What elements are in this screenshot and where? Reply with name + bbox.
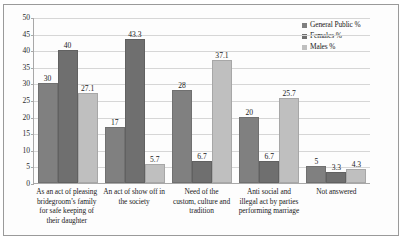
bar-slot: 27.1 [78, 18, 98, 183]
bar-value-label: 6.7 [264, 153, 274, 161]
category-label-line: bridegroom’s family [35, 197, 98, 207]
bar-slot: 30 [38, 18, 58, 183]
bar-group: 304027.1 [34, 18, 101, 183]
bar-group: 286.737.1 [168, 18, 235, 183]
bar-slot: 25.7 [279, 18, 299, 183]
y-axis-tick-label: 0 [26, 180, 30, 188]
bar-value-label: 28 [178, 82, 186, 90]
bar-value-label: 5.7 [150, 156, 160, 164]
category-label-line: custom, culture and [170, 197, 233, 207]
bar-slot: 20 [239, 18, 259, 183]
y-axis-tick-label: 20 [22, 114, 30, 122]
bar-slot: 3.3 [326, 18, 346, 183]
bar-groups: 304027.11743.35.7286.737.1206.725.753.34… [34, 18, 370, 183]
category-label-line: Anti social and [237, 187, 300, 197]
bar-group: 1743.35.7 [101, 18, 168, 183]
bar-slot: 37.1 [212, 18, 232, 183]
category-label: Anti social andillegal act by partiesper… [235, 187, 302, 225]
bar[interactable]: 4.3 [346, 169, 366, 183]
bar[interactable]: 5.7 [145, 164, 165, 183]
category-label: An act of show off inthe society [100, 187, 167, 225]
category-label-line: for safe keeping of [35, 206, 98, 216]
category-label-line: Not answered [305, 187, 368, 197]
bar[interactable]: 6.7 [259, 161, 279, 183]
bar-value-label: 27.1 [81, 85, 94, 93]
bar-slot: 5.7 [145, 18, 165, 183]
y-axis-tick-label: 50 [22, 14, 30, 22]
category-label-line: performing marriage [237, 206, 300, 216]
category-label-line: their daughter [35, 216, 98, 226]
category-axis-labels: As an act of pleasingbridegroom’s family… [33, 187, 370, 225]
category-label: Not answered [303, 187, 370, 225]
category-label-line: As an act of pleasing [35, 187, 98, 197]
bar[interactable]: 25.7 [279, 98, 299, 183]
bar-group: 206.725.7 [236, 18, 303, 183]
y-axis-tick-label: 40 [22, 47, 30, 55]
bar-slot: 28 [172, 18, 192, 183]
y-axis-tick-label: 15 [22, 130, 30, 138]
plot-area: 05101520253035404550 304027.11743.35.728… [33, 18, 370, 184]
gridline [34, 184, 370, 185]
y-axis-tick-label: 45 [22, 31, 30, 39]
bar-value-label: 30 [44, 75, 52, 83]
category-label: Need of thecustom, culture andtradition [168, 187, 235, 225]
y-tick-mark [31, 184, 34, 185]
bar-value-label: 40 [64, 42, 72, 50]
bar-value-label: 43.3 [128, 31, 141, 39]
bar[interactable]: 40 [58, 50, 78, 183]
bar-value-label: 5 [315, 158, 319, 166]
bar[interactable]: 30 [38, 83, 58, 183]
bar-slot: 17 [105, 18, 125, 183]
bar[interactable]: 3.3 [326, 172, 346, 183]
bar[interactable]: 17 [105, 127, 125, 183]
y-axis-tick-label: 35 [22, 64, 30, 72]
bar-slot: 43.3 [125, 18, 145, 183]
bar[interactable]: 28 [172, 90, 192, 183]
bar-value-label: 25.7 [283, 90, 296, 98]
bar[interactable]: 20 [239, 117, 259, 183]
bar-slot: 6.7 [192, 18, 212, 183]
bar-group: 53.34.3 [303, 18, 370, 183]
category-label: As an act of pleasingbridegroom’s family… [33, 187, 100, 225]
bar-slot: 6.7 [259, 18, 279, 183]
bar[interactable]: 37.1 [212, 60, 232, 183]
bar[interactable]: 27.1 [78, 93, 98, 183]
bar-value-label: 17 [111, 119, 119, 127]
bar[interactable]: 6.7 [192, 161, 212, 183]
bar-value-label: 20 [245, 109, 253, 117]
category-label-line: the society [102, 197, 165, 207]
bar-value-label: 4.3 [352, 161, 362, 169]
bar[interactable]: 5 [306, 166, 326, 183]
chart-frame: General Public %Females %Males % 0510152… [3, 4, 399, 236]
y-axis-tick-label: 25 [22, 97, 30, 105]
bar-slot: 4.3 [346, 18, 366, 183]
bar-slot: 40 [58, 18, 78, 183]
y-axis-tick-label: 5 [26, 163, 30, 171]
category-label-line: tradition [170, 206, 233, 216]
category-label-line: illegal act by parties [237, 197, 300, 207]
bar-slot: 5 [306, 18, 326, 183]
bar-value-label: 6.7 [197, 153, 207, 161]
bar[interactable]: 43.3 [125, 39, 145, 183]
bar-value-label: 3.3 [332, 164, 342, 172]
category-label-line: Need of the [170, 187, 233, 197]
y-axis-tick-label: 10 [22, 147, 30, 155]
category-label-line: An act of show off in [102, 187, 165, 197]
bar-value-label: 37.1 [215, 52, 228, 60]
y-axis-tick-label: 30 [22, 80, 30, 88]
